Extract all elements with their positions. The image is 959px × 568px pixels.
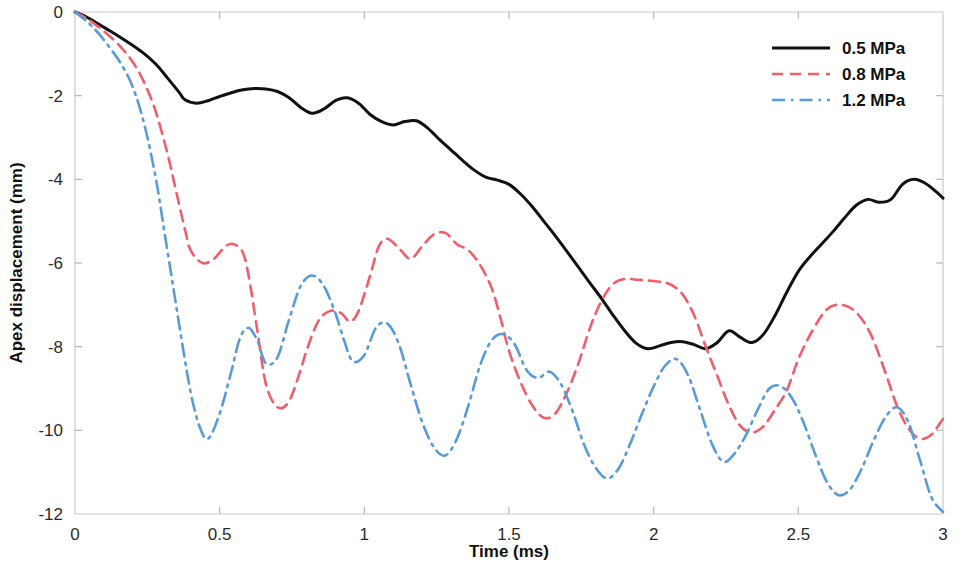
- y-tick-label: -10: [38, 421, 63, 440]
- series-line-0-5-mpa: [75, 12, 943, 349]
- y-axis-ticks: 0-2-4-6-8-10-12: [38, 3, 943, 524]
- x-axis-ticks: 00.511.522.53: [70, 12, 947, 544]
- y-tick-label: 0: [54, 3, 63, 22]
- legend-label: 0.5 MPa: [842, 39, 906, 58]
- x-tick-label: 1: [360, 525, 369, 544]
- legend-label: 0.8 MPa: [842, 65, 906, 84]
- x-tick-label: 0.5: [208, 525, 232, 544]
- y-tick-label: -4: [48, 170, 63, 189]
- chart-legend: 0.5 MPa0.8 MPa1.2 MPa: [772, 39, 906, 110]
- line-chart-plot: 00.511.522.53 0-2-4-6-8-10-12 Time (ms) …: [0, 0, 959, 568]
- x-tick-label: 0: [70, 525, 79, 544]
- y-tick-label: -8: [48, 338, 63, 357]
- x-tick-label: 2: [649, 525, 658, 544]
- y-tick-label: -2: [48, 87, 63, 106]
- data-series-group: [75, 12, 943, 512]
- x-tick-label: 2.5: [787, 525, 811, 544]
- x-tick-label: 3: [938, 525, 947, 544]
- legend-label: 1.2 MPa: [842, 91, 906, 110]
- x-axis-title: Time (ms): [469, 542, 549, 561]
- series-line-0-8-mpa: [75, 12, 943, 439]
- y-tick-label: -6: [48, 254, 63, 273]
- y-axis-title: Apex displacement (mm): [7, 162, 26, 363]
- series-line-1-2-mpa: [75, 12, 943, 512]
- chart-figure: 00.511.522.53 0-2-4-6-8-10-12 Time (ms) …: [0, 0, 959, 568]
- y-tick-label: -12: [38, 505, 63, 524]
